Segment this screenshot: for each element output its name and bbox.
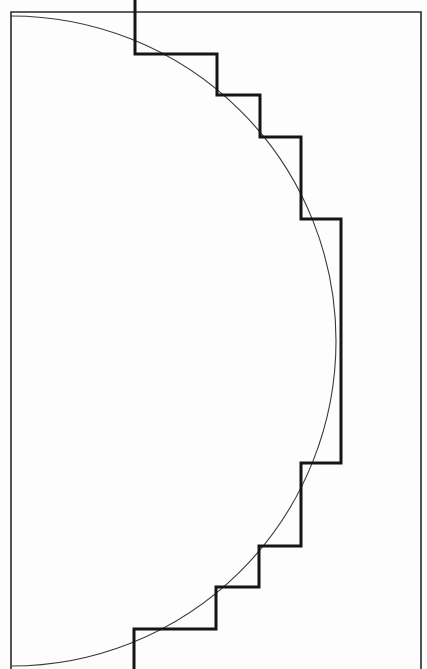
staircase-semicircle-diagram <box>0 0 427 669</box>
background <box>0 0 427 669</box>
